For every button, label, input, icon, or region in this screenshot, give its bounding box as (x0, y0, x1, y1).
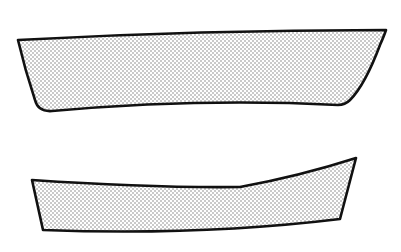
upper-curved-band (18, 30, 386, 111)
lower-curved-band (32, 158, 356, 232)
figure-canvas (0, 0, 401, 252)
diagram-svg (0, 0, 401, 252)
